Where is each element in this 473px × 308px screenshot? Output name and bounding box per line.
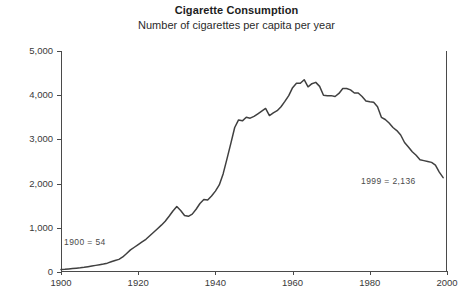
x-tick-label: 1920 [118,277,158,288]
cigarette-consumption-chart: Cigarette Consumption Number of cigarett… [0,0,473,308]
x-tick-label: 1980 [350,277,390,288]
page-title: Cigarette Consumption [0,3,473,17]
chart-subtitle: Number of cigarettes per capita per year [0,18,473,33]
y-tick-label: 4,000 [0,89,53,100]
y-tick-label: 5,000 [0,45,53,56]
line-series-cigarettes [61,80,443,270]
annotation-start-value: 1900 = 54 [64,237,106,247]
x-axis-labels: 190019201940196019802000 [61,277,447,291]
plot-area [61,51,447,272]
x-tick-label: 2000 [427,277,467,288]
y-tick-label: 2,000 [0,178,53,189]
x-tick-label: 1900 [41,277,81,288]
x-tick-label: 1940 [195,277,235,288]
data-series-layer [61,51,447,272]
y-tick-label: 0 [0,266,53,277]
annotation-end-value: 1999 = 2,136 [361,176,416,186]
x-tick-mark [447,271,448,275]
chart-title-block: Cigarette Consumption Number of cigarett… [0,3,473,33]
y-tick-label: 1,000 [0,222,53,233]
y-tick-label: 3,000 [0,133,53,144]
x-tick-label: 1960 [273,277,313,288]
